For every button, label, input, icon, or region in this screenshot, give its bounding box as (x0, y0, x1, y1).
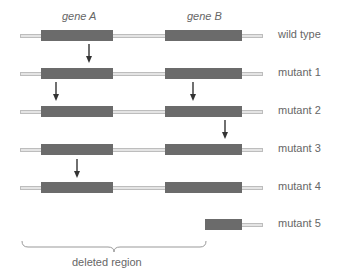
row-label: mutant 5 (278, 217, 321, 229)
row-label: mutant 3 (278, 142, 321, 154)
gene-b-box (165, 106, 242, 117)
mutation-arrow-icon (220, 120, 230, 140)
mutation-arrow-icon (72, 159, 82, 179)
deleted-region-brace-icon (20, 240, 208, 254)
deleted-region-label: deleted region (72, 256, 142, 268)
gene-a-box (41, 30, 113, 41)
row-label: wild type (278, 28, 321, 40)
gene-b-box (165, 182, 242, 193)
row-label: mutant 4 (278, 180, 321, 192)
mutation-arrow-icon (51, 82, 61, 102)
gene-b-box (165, 144, 242, 155)
row-mutant-3: mutant 3 (0, 144, 337, 156)
gene-a-box (41, 106, 113, 117)
gene-b-label: gene B (187, 10, 222, 22)
mutation-arrow-icon (188, 82, 198, 102)
row-mutant-1: mutant 1 (0, 68, 337, 80)
row-mutant-4: mutant 4 (0, 182, 337, 194)
gene-b-fragment-box (205, 219, 242, 230)
gene-b-box (165, 68, 242, 79)
gene-a-box (41, 68, 113, 79)
gene-b-box (165, 30, 242, 41)
gene-a-label: gene A (62, 10, 96, 22)
mutation-arrow-icon (84, 44, 94, 64)
row-mutant-2: mutant 2 (0, 106, 337, 118)
gene-a-box (41, 182, 113, 193)
gene-a-box (41, 144, 113, 155)
row-label: mutant 2 (278, 104, 321, 116)
row-mutant-5: mutant 5 (0, 219, 337, 231)
row-wild-type: wild type (0, 30, 337, 42)
row-label: mutant 1 (278, 66, 321, 78)
